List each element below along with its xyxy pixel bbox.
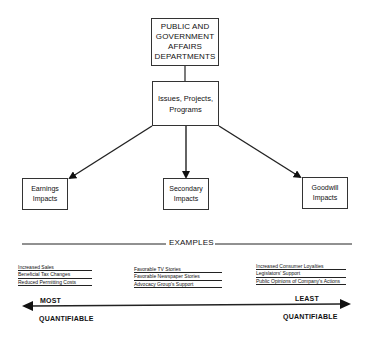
axis-left-arrowhead (22, 301, 33, 311)
goodwill-impacts-box: Goodwill Impacts (302, 177, 348, 209)
middle-line: Issues, Projects, (158, 93, 213, 104)
example-item: Favorable TV Stories (134, 266, 222, 273)
least-label: LEAST (295, 295, 319, 302)
examples-goodwill-list: Increased Consumer Loyalties Legislators… (256, 263, 346, 285)
axis-right-arrowhead (340, 299, 351, 309)
example-item: Favorable Newspaper Stories (134, 273, 222, 280)
example-item: Beneficial Tax Changes (18, 271, 92, 278)
example-item: Reduced Permitting Costs (18, 279, 92, 286)
root-line: GOVERNMENT (155, 32, 216, 42)
example-item: Public Opinions of Company's Actions (256, 278, 346, 285)
earnings-impacts-box: Earnings Impacts (22, 178, 68, 210)
arrow-to-earnings (70, 126, 152, 178)
goodwill-line: Impacts (312, 193, 339, 204)
examples-heading: EXAMPLES (168, 238, 215, 247)
secondary-line: Secondary (169, 184, 202, 195)
example-item: Advocacy Group's Support (134, 281, 222, 288)
quantifiable-axis (30, 304, 340, 306)
quantifiable-left-label: QUANTIFIABLE (39, 315, 94, 322)
arrow-to-goodwill (219, 126, 300, 177)
secondary-line: Impacts (169, 194, 202, 205)
middle-line: Programs (158, 104, 213, 115)
earnings-line: Earnings (31, 184, 59, 195)
goodwill-line: Goodwill (312, 183, 339, 194)
examples-secondary-list: Favorable TV Stories Favorable Newspaper… (134, 266, 222, 288)
earnings-line: Impacts (31, 194, 59, 205)
public-government-affairs-box: PUBLIC AND GOVERNMENT AFFAIRS DEPARTMENT… (151, 18, 219, 66)
most-label: MOST (40, 297, 61, 304)
issues-projects-programs-box: Issues, Projects, Programs (152, 81, 219, 126)
root-line: AFFAIRS (155, 42, 216, 52)
example-item: Increased Consumer Loyalties (256, 263, 346, 270)
secondary-impacts-box: Secondary Impacts (163, 178, 209, 210)
examples-earnings-list: Increased Sales Beneficial Tax Changes R… (18, 264, 92, 286)
example-item: Legislators' Support (256, 270, 346, 277)
example-item: Increased Sales (18, 264, 92, 271)
root-line: DEPARTMENTS (155, 52, 216, 62)
quantifiable-right-label: QUANTIFIABLE (283, 313, 338, 320)
root-line: PUBLIC AND (155, 22, 216, 32)
